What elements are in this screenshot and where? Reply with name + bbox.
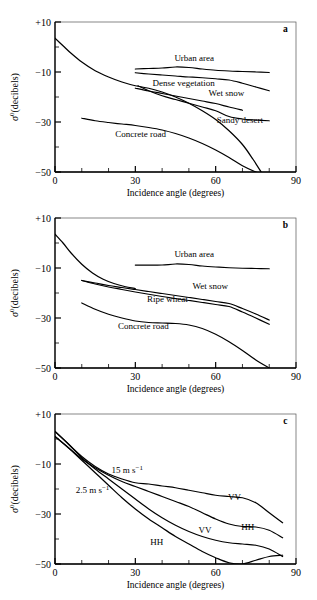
curve-label: Sandy desert — [217, 115, 264, 125]
x-tick-label: 60 — [211, 371, 221, 382]
y-tick-label: −50 — [35, 167, 51, 178]
curve-label: Dense vegetation — [152, 78, 215, 88]
curve-label: VV — [198, 525, 211, 535]
x-tick-label: 0 — [53, 567, 58, 578]
x-tick-label: 30 — [130, 175, 140, 186]
curve-label: Urban area — [174, 53, 214, 63]
x-tick-label: 90 — [291, 567, 301, 578]
y-tick-label: +10 — [35, 213, 51, 224]
x-tick-label: 90 — [291, 175, 301, 186]
y-tick-label: +10 — [35, 17, 51, 28]
data-curve — [135, 67, 269, 73]
svg-text:σ0(decibels): σ0(decibels) — [8, 269, 21, 317]
curve-label: Wet snow — [193, 281, 229, 291]
y-tick-label: +10 — [35, 409, 51, 420]
data-curve — [55, 234, 135, 288]
curve-label: Urban area — [174, 249, 214, 259]
y-tick-label: −30 — [35, 117, 51, 128]
panel-letter: a — [283, 24, 288, 34]
x-tick-label: 0 — [53, 175, 58, 186]
curve-label: HH — [150, 537, 163, 547]
y-tick-label: −50 — [35, 363, 51, 374]
y-tick-label: −10 — [35, 263, 51, 274]
y-tick-label: −30 — [35, 509, 51, 520]
curve-label: HH — [241, 522, 254, 532]
svg-text:σ0(decibels): σ0(decibels) — [8, 73, 21, 121]
x-tick-label: 60 — [211, 175, 221, 186]
x-tick-label: 0 — [53, 371, 58, 382]
y-tick-label: −10 — [35, 459, 51, 470]
data-curve — [55, 432, 283, 523]
y-axis-label: σ0(decibels) — [8, 465, 21, 513]
y-axis-label: σ0(decibels) — [8, 73, 21, 121]
curve-label: Concrete road — [115, 129, 166, 139]
y-tick-label: −10 — [35, 67, 51, 78]
panel-letter: c — [283, 416, 287, 426]
y-axis-label: σ0(decibels) — [8, 269, 21, 317]
radar-backscatter-figure: +10−10−30−500306090Incidence angle (degr… — [0, 0, 317, 600]
curve-label: 2.5 m s−1 — [76, 484, 110, 495]
chart-panel-a: +10−10−30−500306090Incidence angle (degr… — [0, 0, 317, 200]
x-axis-label: Incidence angle (degrees) — [127, 580, 225, 591]
curve-label: VV — [228, 492, 241, 502]
chart-panel-b: +10−10−30−500306090Incidence angle (degr… — [0, 196, 317, 396]
x-tick-label: 30 — [130, 567, 140, 578]
curve-label: Concrete road — [118, 321, 169, 331]
y-tick-label: −50 — [35, 559, 51, 570]
curve-label: Ripe wheat — [147, 294, 188, 304]
y-tick-label: −30 — [35, 313, 51, 324]
data-curve — [82, 118, 267, 176]
panel-letter: b — [283, 220, 288, 230]
data-curve — [135, 264, 269, 269]
svg-text:σ0(decibels): σ0(decibels) — [8, 465, 21, 513]
curve-label: 15 m s−1 — [112, 464, 144, 475]
x-tick-label: 90 — [291, 371, 301, 382]
chart-panel-c: +10−10−30−500306090Incidence angle (degr… — [0, 392, 317, 592]
curve-label: Wet snow — [209, 88, 245, 98]
x-tick-label: 60 — [211, 567, 221, 578]
data-curve — [55, 38, 261, 172]
data-curve — [82, 303, 269, 368]
x-tick-label: 30 — [130, 371, 140, 382]
